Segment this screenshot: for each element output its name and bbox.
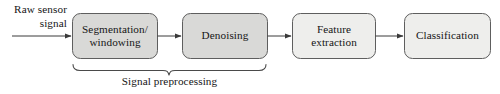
diagram-canvas: Raw sensor signal Segmentation/ windowin… bbox=[0, 0, 500, 94]
source-signal-label-line1: Raw sensor bbox=[0, 3, 67, 17]
node-box-feature-extraction[interactable] bbox=[293, 14, 376, 59]
preprocessing-brace bbox=[73, 65, 266, 76]
preprocessing-group-label: Signal preprocessing bbox=[72, 75, 267, 89]
source-signal-label: Raw sensor signal bbox=[0, 3, 67, 30]
node-box-classification[interactable] bbox=[405, 14, 491, 59]
source-signal-label-line2: signal bbox=[0, 17, 67, 31]
node-box-denoising[interactable] bbox=[183, 14, 268, 59]
node-box-segmentation-windowing[interactable] bbox=[73, 14, 158, 59]
